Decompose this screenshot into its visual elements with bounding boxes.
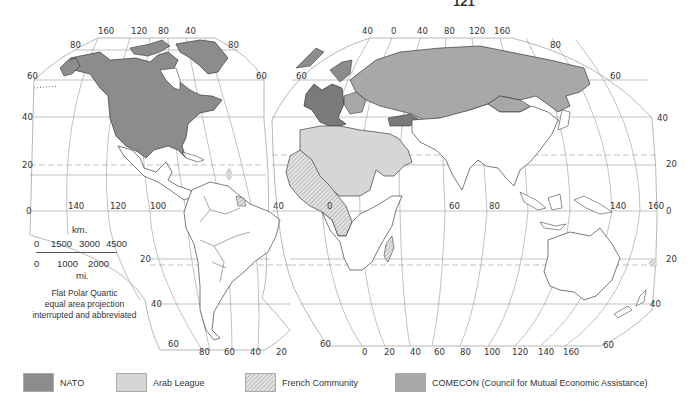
svg-text:80: 80 (158, 25, 169, 36)
svg-text:20: 20 (22, 159, 33, 170)
svg-text:60: 60 (603, 339, 614, 350)
svg-text:60: 60 (256, 70, 267, 81)
scale-km-tick-1: 1500 (51, 238, 72, 249)
svg-text:40: 40 (273, 200, 284, 211)
projection-note: Flat Polar Quartic equal area projection… (22, 288, 147, 321)
region-europe-nato (304, 84, 346, 128)
svg-text:0: 0 (362, 346, 367, 357)
legend-item-arab-league: Arab League (116, 373, 205, 392)
svg-text:60: 60 (449, 200, 460, 211)
svg-text:80: 80 (460, 346, 471, 357)
svg-text:40: 40 (151, 298, 162, 309)
svg-text:80: 80 (199, 346, 210, 357)
svg-text:120: 120 (512, 346, 528, 357)
svg-text:80: 80 (228, 39, 239, 50)
svg-text:80: 80 (550, 39, 561, 50)
svg-text:60: 60 (168, 338, 179, 349)
svg-text:20: 20 (140, 253, 151, 264)
svg-text:20: 20 (666, 158, 677, 169)
svg-text:20: 20 (276, 346, 287, 357)
scale-km-tick-3: 4500 (106, 238, 127, 249)
scale-mi-unit: mi. (76, 270, 89, 281)
svg-text:120: 120 (110, 200, 126, 211)
svg-text:40: 40 (410, 346, 421, 357)
region-ussr-comecon (350, 46, 590, 120)
scale-km-tick-2: 3000 (79, 238, 100, 249)
svg-text:40: 40 (650, 298, 661, 309)
svg-text:140: 140 (538, 346, 554, 357)
arab-league-swatch (116, 373, 147, 392)
scale-mi-tick-0: 0 (34, 258, 39, 269)
projection-line-3: interrupted and abbreviated (22, 310, 147, 321)
nato-swatch (23, 373, 54, 392)
svg-text:80: 80 (489, 200, 500, 211)
svg-text:40: 40 (22, 111, 33, 122)
legend-item-nato: NATO (23, 373, 84, 392)
svg-text:60: 60 (27, 70, 38, 81)
scale-km-tick-0: 0 (34, 238, 39, 249)
svg-text:60: 60 (224, 346, 235, 357)
projection-line-1: Flat Polar Quartic (22, 288, 147, 299)
region-australia (544, 228, 620, 300)
svg-text:160: 160 (563, 346, 579, 357)
scale-km-unit: km. (72, 224, 87, 235)
svg-text:0: 0 (327, 200, 332, 211)
svg-text:80: 80 (70, 39, 81, 50)
svg-text:100: 100 (484, 346, 500, 357)
scale-line (36, 252, 117, 257)
svg-text:120: 120 (131, 25, 147, 36)
svg-text:40: 40 (250, 346, 261, 357)
region-greenland (176, 40, 228, 74)
french-community-swatch (245, 373, 276, 392)
region-north-america-nato (70, 52, 222, 158)
svg-text:160: 160 (648, 200, 664, 211)
svg-text:40: 40 (417, 25, 428, 36)
svg-text:20: 20 (384, 346, 395, 357)
legend-label: COMECON (Council for Mutual Economic Ass… (432, 378, 648, 388)
svg-text:60: 60 (434, 346, 445, 357)
comecon-swatch (395, 373, 426, 392)
svg-text:40: 40 (185, 25, 196, 36)
svg-text:0: 0 (391, 25, 396, 36)
legend: NATO Arab League French Community COMECO… (0, 373, 696, 397)
scale-mi-tick-1: 1000 (57, 258, 78, 269)
legend-item-french-community: French Community (245, 373, 358, 392)
svg-text:80: 80 (444, 25, 455, 36)
svg-text:0: 0 (26, 205, 31, 216)
svg-text:40: 40 (657, 112, 668, 123)
svg-text:140: 140 (610, 200, 626, 211)
legend-label: NATO (60, 378, 84, 388)
legend-label: French Community (282, 378, 358, 388)
svg-text:40: 40 (362, 25, 373, 36)
svg-text:60: 60 (320, 338, 331, 349)
legend-label: Arab League (153, 378, 205, 388)
east-lobe: 40 0 40 80 120 160 60 80 60 40 20 0 20 4… (272, 25, 677, 357)
legend-item-comecon: COMECON (Council for Mutual Economic Ass… (395, 373, 648, 392)
svg-text:60: 60 (610, 70, 621, 81)
svg-text:20: 20 (666, 253, 677, 264)
projection-line-2: equal area projection (22, 299, 147, 310)
region-south-america (184, 182, 280, 340)
svg-text:160: 160 (98, 25, 114, 36)
scale-mi-tick-2: 2000 (88, 258, 109, 269)
svg-text:60: 60 (296, 70, 307, 81)
svg-text:160: 160 (494, 25, 510, 36)
svg-text:120: 120 (469, 25, 485, 36)
svg-text:0: 0 (666, 205, 671, 216)
svg-text:100: 100 (150, 200, 166, 211)
svg-text:140: 140 (68, 200, 84, 211)
